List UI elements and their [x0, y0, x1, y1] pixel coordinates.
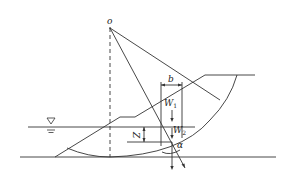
b-arrow-right	[178, 84, 182, 87]
w1-arrowhead	[170, 118, 173, 122]
slip-arc	[67, 75, 237, 157]
w2-arrowhead	[170, 135, 173, 139]
w1-sub: 1	[173, 102, 177, 109]
vertical-arrowhead	[170, 166, 173, 170]
z-arrow-top	[143, 127, 146, 131]
z-arrow-bottom	[143, 138, 146, 142]
slope-profile	[55, 75, 255, 157]
z-label: Z	[131, 131, 141, 139]
radius-line-slice	[110, 28, 185, 168]
radius-line-top	[110, 28, 220, 100]
w2-sub: 2	[182, 129, 186, 136]
alpha-label: α	[177, 140, 183, 150]
center-label: o	[107, 16, 113, 26]
b-arrow-left	[161, 84, 165, 87]
slope-stability-diagram: o b W1 W2 Z α	[0, 0, 295, 176]
water-table-icon	[47, 118, 55, 133]
b-label: b	[168, 74, 174, 84]
radius-arrowhead	[182, 164, 186, 169]
w1-label: W1	[164, 98, 177, 109]
